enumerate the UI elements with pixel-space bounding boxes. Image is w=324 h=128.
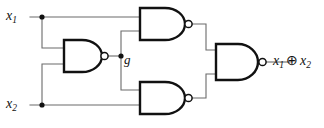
nand-bottom-inversion-bubble [185,94,192,101]
nand-gate-bottom [140,82,192,114]
wire-x1-branch-to-left-gate [42,17,63,48]
nand-top-body [140,8,185,40]
output-label-right-subscript: 2 [306,60,311,70]
xor-operator-icon: ⊕ [284,53,300,68]
output-label-xor: x1⊕x2 [273,54,311,71]
nand-bottom-body [140,82,185,114]
wire-bottom-gate-output-to-final [192,74,215,98]
nand-gate-output [216,44,266,80]
junction-dot-x1 [39,14,44,19]
wire-x2-branch-to-left-gate [42,64,63,105]
junction-dot-g [118,53,123,58]
nand-gate-top [140,8,192,40]
nand-xor-circuit-figure: x1 x2 g x1⊕x2 [0,0,324,128]
input-label-x2: x2 [6,97,17,114]
nand-left-inversion-bubble [101,52,108,59]
nand-top-inversion-bubble [185,20,192,27]
wire-top-gate-output-to-final [192,24,215,50]
intermediate-signal-label-g: g [124,53,131,66]
input-label-x1-subscript: 1 [12,15,17,25]
nand-gate-left [64,40,108,72]
nand-output-body [216,44,258,80]
junction-dot-x2 [39,102,44,107]
nand-output-inversion-bubble [259,58,266,65]
nand-left-body [64,40,102,72]
input-label-x2-subscript: 2 [12,103,17,113]
input-label-x1: x1 [6,9,17,26]
